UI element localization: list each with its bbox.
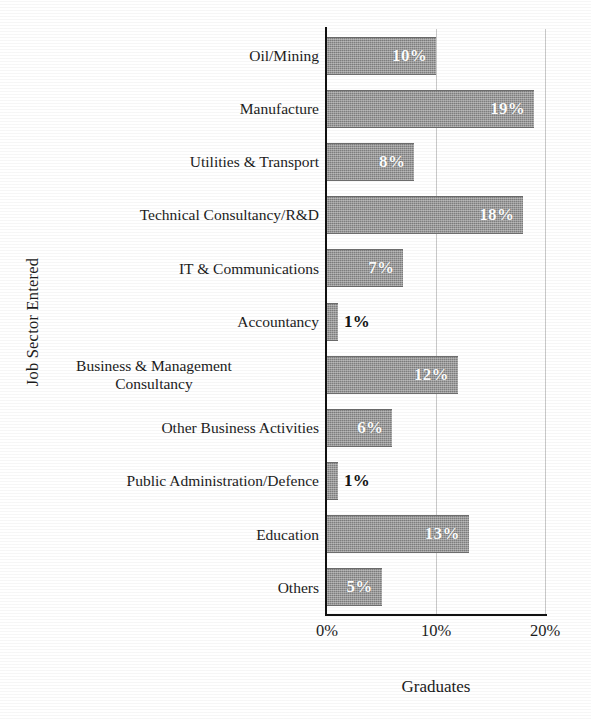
bar[interactable]: 10% bbox=[327, 37, 436, 75]
bar-row: Business & ManagementConsultancy12% bbox=[327, 348, 545, 401]
category-label: Accountancy bbox=[0, 295, 319, 348]
bar-value-label: 5% bbox=[346, 568, 372, 606]
plot-area: Oil/Mining10%Manufacture19%Utilities & T… bbox=[327, 29, 545, 614]
bar-row: Manufacture19% bbox=[327, 82, 545, 135]
bar-value-label: 13% bbox=[425, 515, 460, 553]
bar[interactable]: 18% bbox=[327, 196, 523, 234]
category-label: Public Administration/Defence bbox=[0, 454, 319, 507]
bar-row: Education13% bbox=[327, 508, 545, 561]
category-label: Business & ManagementConsultancy bbox=[0, 348, 319, 401]
x-tick-label-20: 20% bbox=[530, 621, 560, 641]
bar-row: Utilities & Transport8% bbox=[327, 135, 545, 188]
x-axis-line bbox=[325, 614, 547, 616]
category-label: Other Business Activities bbox=[0, 401, 319, 454]
bar[interactable]: 12% bbox=[327, 356, 458, 394]
bar-row: Public Administration/Defence1% bbox=[327, 454, 545, 507]
bar[interactable]: 13% bbox=[327, 515, 469, 553]
category-label: Technical Consultancy/R&D bbox=[0, 189, 319, 242]
bar-value-label: 1% bbox=[344, 462, 370, 500]
bar-value-label: 10% bbox=[392, 37, 427, 75]
x-axis-title: Graduates bbox=[327, 677, 545, 697]
bar-row: Oil/Mining10% bbox=[327, 29, 545, 82]
bar-row: Other Business Activities6% bbox=[327, 401, 545, 454]
bar[interactable]: 19% bbox=[327, 90, 534, 128]
bar-row: Technical Consultancy/R&D18% bbox=[327, 189, 545, 242]
category-label: Manufacture bbox=[0, 82, 319, 135]
bar[interactable]: 7% bbox=[327, 249, 403, 287]
bar-value-label: 1% bbox=[344, 303, 370, 341]
bar[interactable]: 1% bbox=[327, 462, 338, 500]
category-label: Utilities & Transport bbox=[0, 135, 319, 188]
bar[interactable]: 1% bbox=[327, 303, 338, 341]
category-label: Education bbox=[0, 508, 319, 561]
bar-fill bbox=[327, 303, 338, 341]
bar[interactable]: 5% bbox=[327, 568, 382, 606]
bar-value-label: 8% bbox=[379, 143, 405, 181]
bar[interactable]: 8% bbox=[327, 143, 414, 181]
bar[interactable]: 6% bbox=[327, 409, 392, 447]
bar-row: Accountancy1% bbox=[327, 295, 545, 348]
category-label: Others bbox=[0, 561, 319, 614]
bar-value-label: 18% bbox=[479, 196, 514, 234]
x-tick-label-0: 0% bbox=[316, 621, 338, 641]
bar-fill bbox=[327, 462, 338, 500]
category-label: Oil/Mining bbox=[0, 29, 319, 82]
bar-value-label: 7% bbox=[368, 249, 394, 287]
bar-chart: Job Sector Entered Oil/Mining10%Manufact… bbox=[0, 0, 591, 719]
gridline-20 bbox=[545, 29, 546, 614]
bar-value-label: 12% bbox=[414, 356, 449, 394]
bar-row: Others5% bbox=[327, 561, 545, 614]
category-label: IT & Communications bbox=[0, 242, 319, 295]
x-tick-label-10: 10% bbox=[421, 621, 451, 641]
bar-value-label: 19% bbox=[490, 90, 525, 128]
bar-row: IT & Communications7% bbox=[327, 242, 545, 295]
bar-value-label: 6% bbox=[357, 409, 383, 447]
